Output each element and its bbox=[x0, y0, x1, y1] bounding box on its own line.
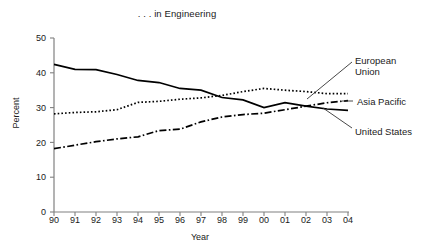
axis-lines bbox=[54, 38, 349, 212]
series-line-european-union bbox=[54, 88, 348, 113]
x-axis-ticks bbox=[54, 212, 348, 216]
annotation-leader-lines bbox=[307, 62, 353, 128]
series-line-united-states bbox=[54, 64, 348, 110]
series-line-asia-pacific bbox=[54, 101, 348, 149]
chart-plot bbox=[0, 0, 434, 251]
chart-figure: . . . in Engineering Percent Year 50 40 … bbox=[0, 0, 434, 251]
